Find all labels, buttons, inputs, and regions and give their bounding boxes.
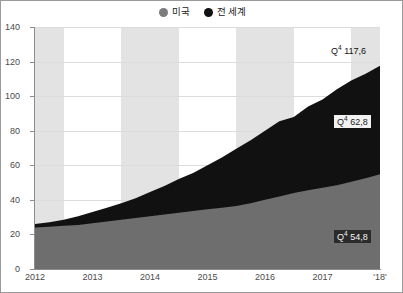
chart-legend: 미국 전 세계 [1,3,403,21]
y-tick-label-40: 40 [0,196,20,205]
x-tick-label-2017: 2017 [312,273,332,282]
legend-label-us: 미국 [172,7,190,17]
x-tick-label-2013: 2013 [82,273,102,282]
chart-container: 미국 전 세계 020406080100120140 2012201320142… [0,0,403,293]
stacked-area-series [35,27,380,269]
legend-item-world: 전 세계 [204,7,247,17]
y-tick-label-60: 60 [0,161,20,170]
x-axis-line [34,269,381,270]
data-label-world-text: Q4 62,8 [337,117,368,127]
y-tick-label-140: 140 [0,23,20,32]
legend-item-us: 미국 [159,7,190,17]
y-tick-label-120: 120 [0,58,20,67]
data-label-us: Q4 54,8 [334,230,371,243]
data-label-world: Q4 62,8 [334,115,371,128]
y-tick-label-100: 100 [0,92,20,101]
x-tick-label-2018: '18' [373,273,386,282]
legend-label-world: 전 세계 [217,7,247,17]
circle-icon [204,8,213,17]
y-axis-line [34,27,35,270]
data-label-total-text: Q4 117,6 [331,46,366,56]
y-tick-label-20: 20 [0,230,20,239]
x-tick-label-2015: 2015 [197,273,217,282]
data-label-us-text: Q4 54,8 [337,232,368,242]
x-tick-label-2012: 2012 [25,273,45,282]
circle-icon [159,8,168,17]
y-tick-label-0: 0 [0,265,20,274]
x-tick-label-2016: 2016 [255,273,275,282]
y-tick-label-80: 80 [0,127,20,136]
plot-area [35,27,380,269]
x-tick-label-2014: 2014 [140,273,160,282]
data-label-total: Q4 117,6 [331,45,366,56]
